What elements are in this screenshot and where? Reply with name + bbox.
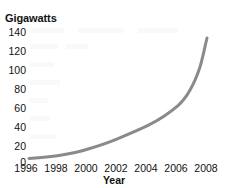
x-tick-label: 2008 — [188, 163, 224, 174]
plot-area — [0, 0, 228, 188]
data-series-line — [29, 38, 207, 159]
chart-container: Gigawatts 140 120 100 80 60 40 20 0 1996… — [0, 0, 228, 188]
x-axis-title: Year — [0, 175, 228, 186]
